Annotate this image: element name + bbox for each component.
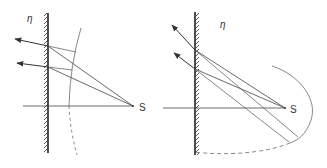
right-source-point [284,107,286,109]
right-wavefront-dashed [193,143,290,154]
left-mirror [44,13,48,153]
right-ray-lower [195,69,285,108]
diagram-canvas: η S η S [0,0,327,168]
left-eta-label: η [27,13,33,24]
left-ray-upper [48,46,133,106]
right-eta-label: η [220,19,226,30]
right-normal-upper [195,50,298,137]
right-ray-upper [195,50,285,108]
right-panel: η S [163,12,313,155]
left-source-point [132,105,134,107]
left-wavefront-dashed [69,106,77,155]
right-source-label: S [290,104,297,115]
left-ray-lower [48,67,133,106]
right-arrow-upper [172,25,195,50]
left-arrow-upper [15,39,48,46]
left-panel: η S [15,13,146,155]
right-arrow-lower [174,53,195,69]
left-arrow-lower [17,63,48,67]
left-source-label: S [139,102,146,113]
right-mirror [195,12,199,155]
left-wavefront-solid [69,28,81,106]
